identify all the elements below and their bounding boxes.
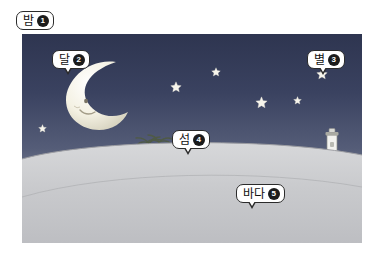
- callout-star-badge: 3: [328, 54, 340, 66]
- callout-star[interactable]: 별 3: [307, 50, 345, 69]
- callout-sea-badge: 5: [268, 188, 280, 200]
- callout-star-label: 별: [314, 54, 325, 66]
- callout-island[interactable]: 섬 4: [172, 130, 210, 149]
- callout-moon[interactable]: 달 2: [52, 50, 90, 69]
- callout-night[interactable]: 밤 1: [16, 11, 54, 30]
- illustration-scene: 밤 1: [0, 0, 384, 261]
- illustration-panel: 달 2 별 3 섬 4 바다 5: [22, 34, 362, 243]
- callout-tail: [248, 202, 256, 209]
- star-4: [255, 95, 268, 113]
- star-3: [211, 63, 221, 81]
- star-2: [170, 79, 182, 97]
- callout-tail: [184, 148, 192, 155]
- callout-moon-badge: 2: [73, 54, 85, 66]
- callout-night-badge: 1: [37, 15, 49, 27]
- star-5: [293, 91, 302, 109]
- callout-tail: [319, 68, 327, 75]
- callout-night-label: 밤: [23, 15, 34, 27]
- callout-island-badge: 4: [193, 134, 205, 146]
- callout-moon-label: 달: [59, 54, 70, 66]
- callout-sea-label: 바다: [243, 188, 265, 200]
- callout-tail: [64, 68, 72, 75]
- callout-island-label: 섬: [179, 134, 190, 146]
- callout-sea[interactable]: 바다 5: [236, 184, 285, 203]
